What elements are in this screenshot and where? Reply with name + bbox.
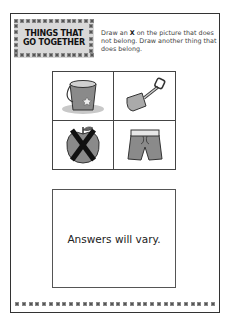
- border-square: [49, 19, 53, 23]
- border-square: [89, 302, 93, 306]
- border-square: [14, 49, 18, 53]
- border-square: [90, 19, 94, 23]
- border-square: [43, 19, 47, 23]
- border-square: [84, 53, 88, 57]
- picture-cell-apple[interactable]: [53, 121, 114, 170]
- title-line-1: THINGS THAT: [20, 29, 88, 38]
- border-square: [130, 302, 134, 306]
- picture-cell-swim-trunks[interactable]: [114, 121, 175, 170]
- border-square: [55, 53, 59, 57]
- border-square: [78, 53, 82, 57]
- border-square: [89, 30, 93, 34]
- border-square: [197, 302, 201, 306]
- border-square: [62, 302, 66, 306]
- border-square: [191, 302, 195, 306]
- instructions: Draw an X on the picture that does not b…: [101, 29, 219, 54]
- border-square: [89, 43, 93, 47]
- border-square: [35, 302, 39, 306]
- border-square: [29, 302, 33, 306]
- swim-trunks-icon: [125, 125, 165, 165]
- border-square: [49, 53, 53, 57]
- border-square: [76, 302, 80, 306]
- title-line-2: GO TOGETHER: [20, 38, 88, 47]
- border-square: [78, 19, 82, 23]
- title-border-bottom: [14, 53, 94, 58]
- border-square: [55, 19, 59, 23]
- border-square: [89, 49, 93, 53]
- border-square: [170, 302, 174, 306]
- border-square: [22, 302, 26, 306]
- border-square: [15, 302, 19, 306]
- border-square: [32, 19, 36, 23]
- border-square: [211, 302, 215, 306]
- border-square: [26, 53, 30, 57]
- border-square: [37, 53, 41, 57]
- border-square: [84, 19, 88, 23]
- title-border-right: [89, 24, 94, 53]
- border-square: [14, 30, 18, 34]
- border-square: [204, 302, 208, 306]
- border-square: [96, 302, 100, 306]
- border-square: [67, 53, 71, 57]
- title-border-left: [14, 24, 19, 53]
- border-square: [72, 19, 76, 23]
- page-title: THINGS THAT GO TOGETHER: [20, 29, 88, 47]
- border-square: [43, 53, 47, 57]
- border-square: [90, 53, 94, 57]
- border-square: [157, 302, 161, 306]
- border-square: [42, 302, 46, 306]
- border-square: [26, 19, 30, 23]
- answer-box[interactable]: Answers will vary.: [52, 189, 176, 288]
- border-square: [177, 302, 181, 306]
- border-square: [110, 302, 114, 306]
- border-square: [103, 302, 107, 306]
- border-square: [20, 53, 24, 57]
- border-square: [72, 53, 76, 57]
- border-square: [14, 19, 18, 23]
- cross-out-x-icon: [68, 127, 98, 163]
- border-square: [164, 302, 168, 306]
- border-square: [32, 53, 36, 57]
- border-square: [89, 37, 93, 41]
- border-square: [137, 302, 141, 306]
- border-square: [14, 37, 18, 41]
- title-banner: THINGS THAT GO TOGETHER: [14, 19, 94, 58]
- instructions-part-1: Draw an: [101, 29, 130, 37]
- border-square: [14, 43, 18, 47]
- picture-cell-bucket[interactable]: [53, 72, 114, 121]
- border-square: [20, 19, 24, 23]
- picture-cell-shovel[interactable]: [114, 72, 175, 121]
- border-square: [83, 302, 87, 306]
- border-square: [14, 53, 18, 57]
- border-square: [14, 24, 18, 28]
- border-square: [37, 19, 41, 23]
- border-square: [61, 19, 65, 23]
- sand-bucket-icon: [59, 76, 107, 116]
- border-square: [49, 302, 53, 306]
- title-border-top: [14, 19, 94, 24]
- border-square: [61, 53, 65, 57]
- border-square: [69, 302, 73, 306]
- border-square: [116, 302, 120, 306]
- border-square: [150, 302, 154, 306]
- answer-text: Answers will vary.: [67, 233, 160, 245]
- border-square: [89, 24, 93, 28]
- border-square: [56, 302, 60, 306]
- border-square: [143, 302, 147, 306]
- picture-grid: [52, 71, 176, 170]
- shovel-icon: [120, 76, 170, 116]
- border-square: [184, 302, 188, 306]
- border-square: [67, 19, 71, 23]
- border-square: [123, 302, 127, 306]
- decorative-bottom-border: [15, 302, 215, 307]
